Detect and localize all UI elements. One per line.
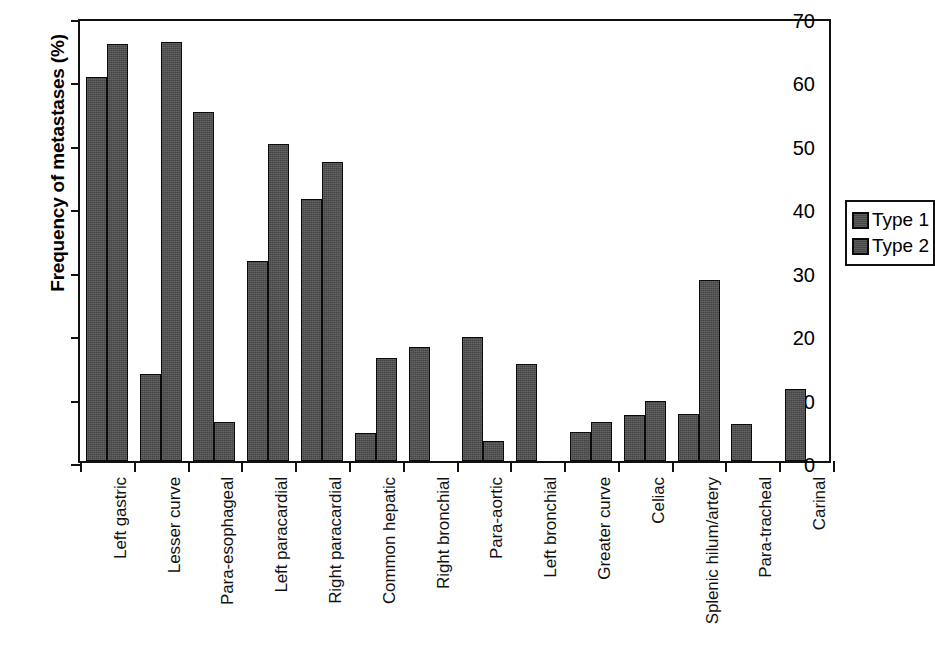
x-axis-tick	[564, 461, 566, 472]
bar-type-1	[678, 414, 699, 461]
y-axis-tick-label: 30	[793, 263, 815, 286]
y-axis-tick	[71, 20, 80, 22]
bar-type-1	[462, 337, 483, 461]
bar-type-1	[516, 364, 537, 461]
x-axis-tick	[457, 461, 459, 472]
x-axis-category-label: Para-esophageal	[218, 477, 238, 656]
y-axis-tick-label: 20	[793, 327, 815, 350]
plot-area: 010203040506070	[78, 19, 831, 463]
y-axis-tick	[71, 401, 80, 403]
x-axis-tick	[672, 461, 674, 472]
bar-type-1	[624, 415, 645, 461]
bar-type-2	[161, 42, 182, 461]
y-axis-tick-label: 40	[793, 200, 815, 223]
x-axis-tick	[725, 461, 727, 472]
bar-type-2	[107, 44, 128, 461]
bar-type-2	[645, 401, 666, 461]
y-axis-tick	[71, 274, 80, 276]
legend-item-type-2: Type 2	[852, 233, 929, 259]
x-axis-tick	[349, 461, 351, 472]
x-axis-category-label: Right bronchial	[434, 477, 454, 656]
x-axis-tick	[295, 461, 297, 472]
legend-swatch-type-2-icon	[852, 238, 869, 255]
bar-type-2	[268, 144, 289, 461]
x-axis-category-label: Left gastric	[111, 477, 131, 656]
bar-type-1	[731, 424, 752, 461]
bar-type-1	[355, 433, 376, 461]
bar-type-1	[570, 432, 591, 461]
bar-type-1	[785, 389, 806, 461]
x-axis-category-label: Left paracardial	[272, 477, 292, 656]
y-axis-tick-label: 70	[793, 10, 815, 33]
x-axis-category-label: Celiac	[649, 477, 669, 656]
x-axis-category-label: Para-tracheal	[756, 477, 776, 656]
legend-item-type-1: Type 1	[852, 207, 929, 233]
bar-type-1	[247, 261, 268, 461]
x-axis-tick	[779, 461, 781, 472]
y-axis-tick-label: 50	[793, 136, 815, 159]
x-axis-tick	[134, 461, 136, 472]
legend-swatch-type-1-icon	[852, 212, 869, 229]
bar-type-2	[376, 358, 397, 461]
bar-type-2	[214, 422, 235, 461]
y-axis-tick	[71, 83, 80, 85]
bar-type-2	[591, 422, 612, 461]
legend-label: Type 2	[872, 235, 929, 257]
bar-type-2	[322, 162, 343, 461]
x-axis-category-label: Left bronchial	[541, 477, 561, 656]
y-axis-tick	[71, 147, 80, 149]
y-axis-tick	[71, 337, 80, 339]
x-axis-tick	[618, 461, 620, 472]
bar-type-1	[409, 347, 430, 461]
x-axis-category-label: Splenic hilum/artery	[703, 477, 723, 656]
x-axis-tick	[188, 461, 190, 472]
x-axis-tick	[833, 461, 835, 472]
x-axis-category-label: Lesser curve	[165, 477, 185, 656]
y-axis-title: Frequency of metastases (%)	[47, 13, 69, 313]
y-axis-tick-label: 60	[793, 73, 815, 96]
legend: Type 1Type 2	[845, 200, 935, 266]
bar-type-1	[140, 374, 161, 461]
x-axis-tick	[241, 461, 243, 472]
x-axis-category-label: Right paracardial	[326, 477, 346, 656]
y-axis-tick	[71, 210, 80, 212]
x-axis-tick	[403, 461, 405, 472]
bar-type-1	[301, 199, 322, 461]
x-axis-category-labels: Left gastricLesser curvePara-esophagealL…	[78, 477, 831, 656]
x-axis-category-label: Greater curve	[595, 477, 615, 656]
x-axis-category-label: Carinal	[810, 477, 830, 656]
x-axis-category-label: Common hepatic	[380, 477, 400, 656]
x-axis-tick	[80, 461, 82, 472]
x-axis-tick	[510, 461, 512, 472]
bar-type-2	[483, 441, 504, 461]
legend-label: Type 1	[872, 209, 929, 231]
bar-type-2	[699, 280, 720, 461]
bar-chart-figure: Frequency of metastases (%) 010203040506…	[0, 0, 935, 656]
x-axis-category-label: Para-aortic	[487, 477, 507, 656]
bar-type-1	[193, 112, 214, 461]
y-axis-tick	[71, 464, 80, 466]
bar-type-1	[86, 77, 107, 461]
